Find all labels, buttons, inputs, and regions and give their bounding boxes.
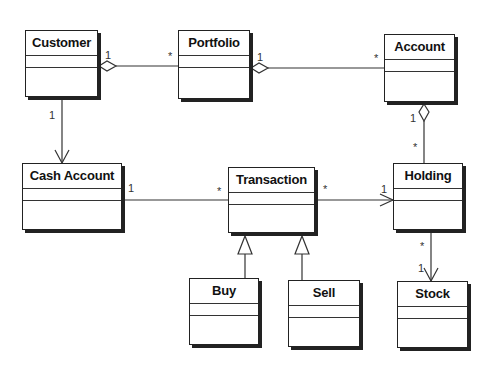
class-name: Holding <box>394 164 462 189</box>
generalization-triangle-icon <box>295 236 309 254</box>
multiplicity-label: 1 <box>381 183 387 195</box>
multiplicity-label: * <box>420 240 424 252</box>
class-customer[interactable]: Customer <box>25 30 98 97</box>
class-name: Transaction <box>229 168 314 193</box>
class-transaction[interactable]: Transaction <box>228 167 315 233</box>
multiplicity-label: 1 <box>49 109 55 121</box>
attributes-compartment <box>394 189 462 201</box>
multiplicity-label: * <box>413 141 417 153</box>
attributes-compartment <box>385 60 454 72</box>
class-holding[interactable]: Holding <box>393 163 463 230</box>
class-name: Cash Account <box>23 164 121 189</box>
generalization-triangle-icon <box>238 236 252 254</box>
class-name: Buy <box>190 279 258 304</box>
multiplicity-label: 1 <box>418 262 424 274</box>
class-account[interactable]: Account <box>384 34 455 102</box>
class-name: Stock <box>398 282 467 307</box>
aggregation-diamond-icon <box>251 63 268 73</box>
attributes-compartment <box>398 307 467 319</box>
multiplicity-label: * <box>168 50 172 62</box>
attributes-compartment <box>190 304 258 316</box>
attributes-compartment <box>289 306 359 318</box>
class-buy[interactable]: Buy <box>189 278 259 345</box>
class-stock[interactable]: Stock <box>397 281 468 348</box>
aggregation-diamond-icon <box>419 104 429 121</box>
class-cash-account[interactable]: Cash Account <box>22 163 122 230</box>
multiplicity-label: * <box>323 183 327 195</box>
multiplicity-label: * <box>374 52 378 64</box>
multiplicity-label: 1 <box>410 112 416 124</box>
attributes-compartment <box>229 193 314 205</box>
uml-class-diagram: Customer Portfolio Account Cash Account … <box>0 0 499 366</box>
attributes-compartment <box>23 189 121 201</box>
multiplicity-label: 1 <box>128 182 134 194</box>
class-name: Sell <box>289 281 359 306</box>
class-name: Customer <box>26 31 97 56</box>
multiplicity-label: * <box>217 185 221 197</box>
attributes-compartment <box>26 56 97 68</box>
multiplicity-label: 1 <box>105 49 111 61</box>
multiplicity-label: 1 <box>257 51 263 63</box>
aggregation-diamond-icon <box>99 61 116 71</box>
class-name: Portfolio <box>179 31 249 56</box>
class-portfolio[interactable]: Portfolio <box>178 30 250 99</box>
class-name: Account <box>385 35 454 60</box>
attributes-compartment <box>179 56 249 68</box>
class-sell[interactable]: Sell <box>288 280 360 347</box>
